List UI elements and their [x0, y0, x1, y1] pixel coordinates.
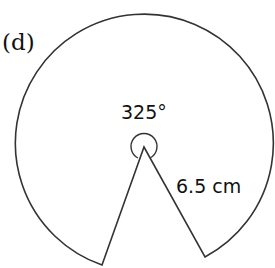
sector-outline: [15, 14, 273, 265]
sector-diagram: (d) 325° 6.5 cm: [0, 0, 275, 268]
angle-label: 325°: [121, 101, 167, 123]
part-label: (d): [2, 29, 35, 55]
radius-label: 6.5 cm: [176, 175, 241, 197]
